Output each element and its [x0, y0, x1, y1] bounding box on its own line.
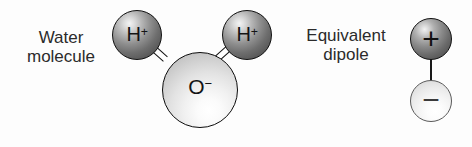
dipole-label-line-2: dipole [283, 45, 409, 64]
oxygen-charge: − [205, 76, 212, 91]
oxygen-symbol: O [188, 75, 204, 98]
hydrogen-right-symbol: H [236, 23, 250, 45]
minus-sign-icon: − [411, 84, 451, 116]
equivalent-dipole-label: Equivalent dipole [283, 26, 409, 64]
hydrogen-left-charge: + [141, 25, 148, 39]
dipole-negative-pole: − [410, 80, 452, 122]
oxygen-atom-sphere: O− [162, 52, 238, 128]
plus-sign-icon: + [411, 23, 451, 55]
hydrogen-atom-sphere-right: H+ [222, 10, 272, 60]
hydrogen-left-symbol: H [126, 23, 140, 45]
hydrogen-atom-sphere-left: H+ [112, 10, 162, 60]
hydrogen-right-charge: + [251, 25, 258, 39]
hydrogen-left-label: H+ [113, 23, 161, 46]
oxygen-atom-label: O− [163, 75, 237, 99]
dipole-positive-pole: + [410, 18, 452, 60]
hydrogen-right-label: H+ [223, 23, 271, 46]
water-molecule-label: Water molecule [6, 28, 116, 66]
dipole-label-line-1: Equivalent [283, 26, 409, 45]
water-label-line-1: Water [6, 28, 116, 47]
water-dipole-figure: Water molecule O− H+ H+ Equivalent dipol… [0, 0, 472, 147]
water-label-line-2: molecule [6, 47, 116, 66]
